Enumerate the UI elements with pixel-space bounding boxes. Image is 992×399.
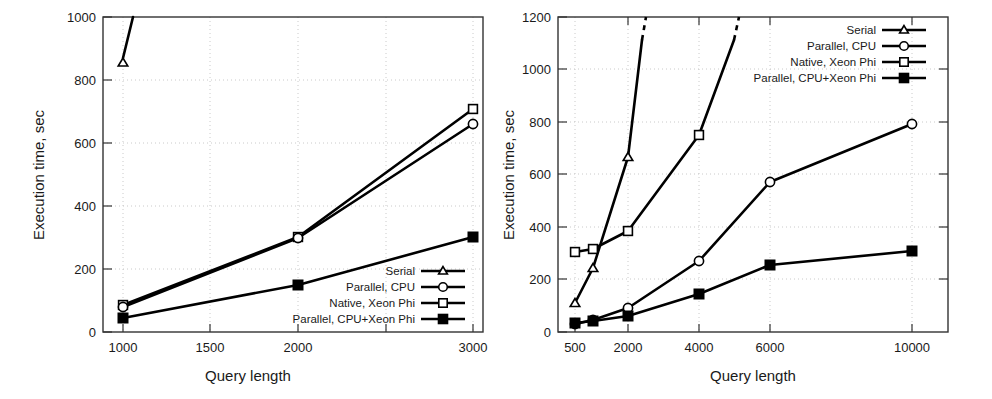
right-xtick-label-4000: 4000 [685,340,714,355]
right-xtick-label-10000: 10000 [894,340,930,355]
left-xtick-label-1500: 1500 [196,340,225,355]
left-x-ticks [123,324,473,332]
marker-open-square [695,131,704,140]
right-series-parallel-cpu [570,119,916,328]
right-xtick-label-2000: 2000 [614,340,643,355]
left-ytick-label-0: 0 [89,325,96,340]
left-ytick-label-400: 400 [74,199,96,214]
left-chart-svg: 0 200 400 600 800 1000 1000 1500 2000 30… [0,0,496,399]
marker-open-square [589,245,598,254]
right-ytick-label-200: 200 [529,272,551,287]
marker-filled-square [900,74,909,83]
marker-open-circle [293,233,302,242]
marker-filled-square [293,280,302,289]
marker-open-circle [468,119,477,128]
marker-open-circle [900,42,909,51]
marker-open-square [571,248,580,257]
legend-label-serial: Serial [847,24,876,36]
marker-open-triangle [588,264,598,272]
left-ytick-label-1000: 1000 [67,10,96,25]
right-ytick-label-1200: 1200 [522,10,551,25]
right-yaxis-title: Execution time, sec [500,109,517,240]
marker-open-square [469,105,478,114]
legend-label-serial: Serial [386,265,415,277]
marker-open-triangle [900,26,909,34]
left-ytick-label-800: 800 [74,73,96,88]
marker-open-triangle [439,267,448,275]
marker-open-square [439,299,447,307]
marker-filled-square [570,318,579,327]
legend-label-parallel-cpu-xeon-phi: Parallel, CPU+Xeon Phi [754,72,876,84]
marker-open-square [900,58,908,66]
left-legend: Serial Parallel, CPU Native, Xeon Phi Pa… [293,265,465,325]
right-xtick-label-6000: 6000 [756,340,785,355]
marker-filled-square [439,315,448,324]
left-series-native-xeon-phi [119,105,478,310]
right-series-native-xeon-phi [571,17,739,256]
right-plot-frame [558,17,948,332]
right-xtick-label-500: 500 [564,340,586,355]
legend-label-parallel-cpu-xeon-phi: Parallel, CPU+Xeon Phi [293,313,415,325]
marker-filled-square [765,260,774,269]
right-ytick-label-0: 0 [544,325,551,340]
left-xtick-label-3000: 3000 [459,340,488,355]
marker-filled-square [588,316,597,325]
marker-filled-square [694,289,703,298]
left-series-serial [118,17,133,66]
marker-open-circle [439,283,448,292]
right-panel: 0 200 400 600 800 1000 1200 500 2000 400… [496,0,992,399]
left-y-ticks [103,17,112,332]
marker-open-triangle [118,58,128,66]
right-series-serial [570,17,646,307]
right-legend: Serial Parallel, CPU Native, Xeon Phi Pa… [754,24,926,84]
figure-container: 0 200 400 600 800 1000 1000 1500 2000 30… [0,0,992,399]
marker-filled-square [623,311,632,320]
right-ytick-label-400: 400 [529,220,551,235]
right-chart-svg: 0 200 400 600 800 1000 1200 500 2000 400… [496,0,992,399]
left-xtick-label-2000: 2000 [284,340,313,355]
left-ytick-label-200: 200 [74,262,96,277]
marker-open-triangle [570,299,580,307]
marker-open-circle [765,177,774,186]
left-panel: 0 200 400 600 800 1000 1000 1500 2000 30… [0,0,496,399]
marker-open-circle [907,119,916,128]
left-ytick-label-600: 600 [74,136,96,151]
legend-label-parallel-cpu: Parallel, CPU [346,281,415,293]
right-ytick-label-800: 800 [529,115,551,130]
right-ytick-label-1000: 1000 [522,62,551,77]
marker-filled-square [468,232,477,241]
marker-open-square [624,227,633,236]
left-xtick-label-1000: 1000 [109,340,138,355]
marker-filled-square [907,246,916,255]
right-y-ticks [558,17,948,332]
right-xaxis-title: Query length [710,367,796,384]
right-gridlines [558,17,948,332]
right-ytick-label-600: 600 [529,167,551,182]
right-series-parallel-cpu-xeon-phi [570,246,916,327]
marker-filled-square [118,313,127,322]
marker-open-circle [694,256,703,265]
legend-label-native-xeon-phi: Native, Xeon Phi [790,56,876,68]
left-xaxis-title: Query length [205,367,291,384]
legend-label-parallel-cpu: Parallel, CPU [807,40,876,52]
legend-label-native-xeon-phi: Native, Xeon Phi [329,297,415,309]
marker-open-triangle [623,153,633,161]
marker-open-circle [118,302,127,311]
left-yaxis-title: Execution time, sec [30,109,47,240]
